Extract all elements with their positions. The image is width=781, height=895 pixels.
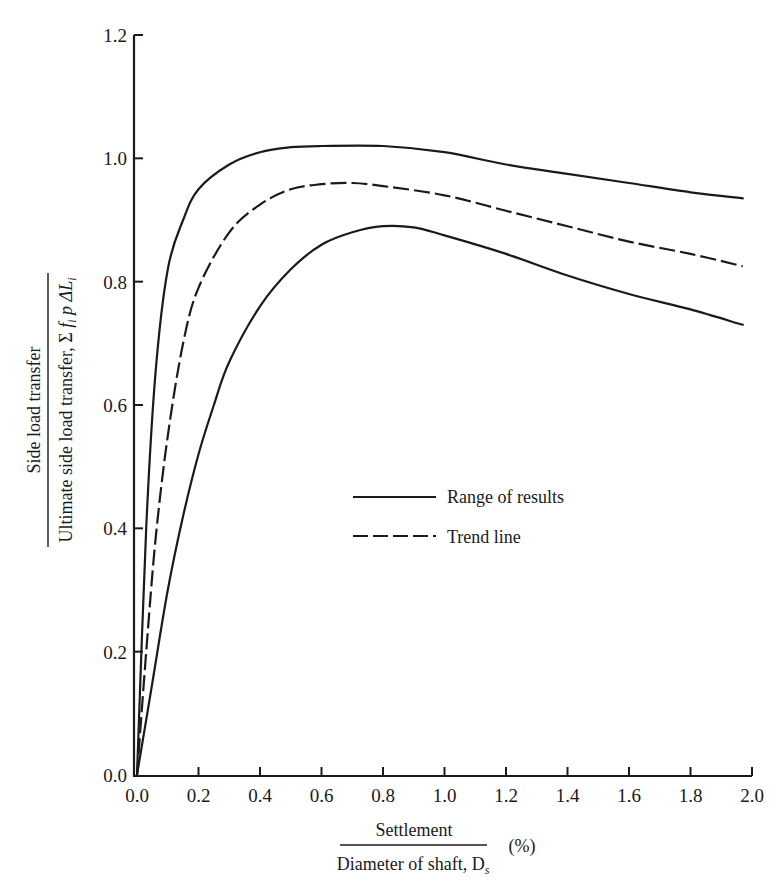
x-axis-label-denominator: Diameter of shaft, Ds <box>337 854 490 877</box>
y-tick-label: 0.2 <box>103 642 127 663</box>
y-axis-label-denominator: Ultimate side load transfer, Σ fi p ΔLi <box>56 278 79 543</box>
y-tick-label: 1.0 <box>103 148 127 169</box>
x-tick-label: 0.2 <box>187 785 211 806</box>
trend-line-curve <box>137 183 743 775</box>
y-axis-label: Side load transfer Ultimate side load tr… <box>24 273 79 547</box>
x-ticks: 0.00.20.40.60.81.01.21.41.61.82.0 <box>125 767 764 806</box>
x-tick-label: 0.0 <box>125 785 149 806</box>
legend-label-trend: Trend line <box>447 527 521 547</box>
x-tick-label: 1.0 <box>433 785 457 806</box>
y-tick-label: 0.0 <box>103 765 127 786</box>
legend-label-range: Range of results <box>447 487 564 507</box>
x-axis-label: Settlement Diameter of shaft, Ds (%) <box>337 820 536 877</box>
x-tick-label: 0.8 <box>371 785 395 806</box>
y-ticks: 0.00.20.40.60.81.01.2 <box>103 25 143 786</box>
x-tick-label: 0.4 <box>248 785 272 806</box>
x-axis-label-unit: (%) <box>509 836 536 857</box>
x-axis-label-numerator: Settlement <box>376 820 453 840</box>
x-tick-label: 1.6 <box>617 785 641 806</box>
range-upper-curve <box>137 146 743 775</box>
range-lower-curve <box>137 226 743 775</box>
y-tick-label: 0.8 <box>103 272 127 293</box>
x-tick-label: 0.6 <box>310 785 334 806</box>
x-tick-label: 1.4 <box>556 785 580 806</box>
legend: Range of results Trend line <box>353 487 564 547</box>
y-tick-label: 0.4 <box>103 518 127 539</box>
x-tick-label: 2.0 <box>740 785 764 806</box>
chart: 0.00.20.40.60.81.01.2 0.00.20.40.60.81.0… <box>0 0 781 895</box>
y-tick-label: 1.2 <box>103 25 127 46</box>
x-tick-label: 1.8 <box>679 785 703 806</box>
x-tick-label: 1.2 <box>494 785 518 806</box>
y-axis-label-numerator: Side load transfer <box>24 347 44 474</box>
y-tick-label: 0.6 <box>103 395 127 416</box>
plot-series <box>137 146 743 775</box>
